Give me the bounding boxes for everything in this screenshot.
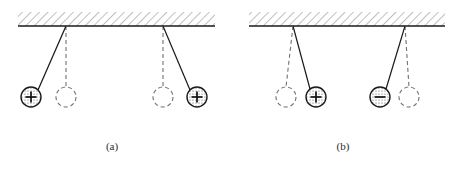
pendulum-a-left <box>21 26 76 107</box>
charged-sphere-b-right <box>370 87 390 107</box>
rest-string-b-left <box>286 26 293 87</box>
rest-position-circle-b-left <box>276 87 296 107</box>
pendulum-string-a-right <box>163 26 190 90</box>
rest-position-circle-b-right <box>399 87 419 107</box>
ceiling-support-b <box>249 12 445 26</box>
panel-caption-b: (b) <box>337 140 350 153</box>
ceiling-support-a <box>18 12 215 26</box>
panel-a: (a) <box>18 12 215 153</box>
physics-figure-charged-pendulums: (a) <box>0 0 463 169</box>
rest-position-circle-a-right <box>153 87 173 107</box>
pendulum-string-a-left <box>38 26 66 90</box>
charged-sphere-a-left <box>21 87 41 107</box>
pendulum-b-left <box>276 26 326 107</box>
charged-sphere-b-left <box>306 87 326 107</box>
charged-sphere-a-right <box>187 87 207 107</box>
rest-position-circle-a-left <box>56 87 76 107</box>
pendulum-b-right <box>370 26 419 107</box>
panel-b: (b) <box>249 12 445 153</box>
pendulum-string-b-right <box>386 26 405 89</box>
pendulum-a-right <box>153 26 207 107</box>
pendulum-string-b-left <box>293 26 310 89</box>
rest-string-b-right <box>405 26 409 87</box>
panel-caption-a: (a) <box>106 140 119 153</box>
